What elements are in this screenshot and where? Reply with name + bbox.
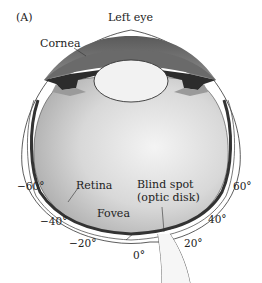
retina-label: Retina xyxy=(76,179,113,192)
title-left-eye: Left eye xyxy=(108,11,153,24)
optic-disk-label: (optic disk) xyxy=(137,191,200,204)
lens xyxy=(94,60,168,102)
angle-neg40: −40° xyxy=(40,215,67,227)
angle-neg60: −60° xyxy=(17,180,44,192)
angle-neg20: −20° xyxy=(69,237,96,249)
eye-diagram: (A) Left eye Cornea Retina Fovea Blind s… xyxy=(0,0,262,283)
fovea-label: Fovea xyxy=(97,207,130,220)
panel-label: (A) xyxy=(16,11,33,24)
cornea-label: Cornea xyxy=(40,37,81,50)
angle-pos20: 20° xyxy=(184,237,203,249)
angle-zero: 0° xyxy=(133,249,145,261)
angle-pos60: 60° xyxy=(233,180,252,192)
blind-spot-label: Blind spot xyxy=(137,178,194,191)
angle-pos40: 40° xyxy=(208,213,227,225)
